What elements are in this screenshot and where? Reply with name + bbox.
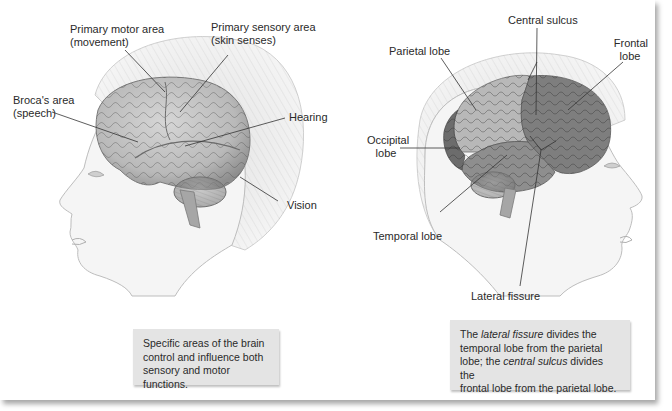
label-vision: Vision (287, 199, 317, 212)
label-text: lobe (367, 147, 405, 160)
caption-right: The lateral fissure divides the temporal… (450, 320, 630, 390)
caption-text: The (460, 328, 481, 340)
label-text: (speech) (13, 107, 74, 120)
label-primary-motor-area: Primary motor area (movement) (70, 23, 164, 49)
label-text: (movement) (70, 36, 164, 49)
figure-page: Primary motor area (movement) Primary se… (0, 0, 655, 400)
label-brocas-area: Broca's area (speech) (13, 94, 74, 120)
caption-text: lobe; the (460, 355, 503, 367)
label-text: (skin senses) (211, 34, 316, 47)
caption-line: The lateral fissure divides the (460, 328, 620, 342)
caption-text: divides the (543, 328, 596, 340)
label-text: Primary sensory area (211, 21, 316, 34)
label-occipital-lobe: Occipital lobe (367, 134, 405, 160)
label-parietal-lobe: Parietal lobe (389, 45, 450, 58)
label-text: Frontal (612, 37, 648, 50)
label-text: Broca's area (13, 94, 74, 107)
caption-term-central-sulcus: central sulcus (503, 355, 567, 367)
left-head (52, 37, 304, 296)
caption-term-lateral-fissure: lateral fissure (481, 328, 543, 340)
label-central-sulcus: Central sulcus (508, 14, 578, 27)
right-head (400, 28, 642, 296)
caption-left: Specific areas of the brain control and … (133, 329, 279, 385)
caption-line: Specific areas of the brain (143, 337, 269, 351)
caption-line: control and influence both (143, 351, 269, 365)
label-frontal-lobe: Frontal lobe (612, 37, 648, 63)
label-text: Occipital (367, 134, 405, 147)
label-temporal-lobe: Temporal lobe (373, 230, 442, 243)
label-lateral-fissure: Lateral fissure (471, 290, 540, 303)
caption-line: sensory and motor functions. (143, 364, 269, 391)
caption-line: lobe; the central sulcus divides the (460, 355, 620, 382)
label-text: lobe (612, 50, 648, 63)
label-text: Primary motor area (70, 23, 164, 36)
caption-line: temporal lobe from the parietal (460, 342, 620, 356)
label-hearing: Hearing (289, 111, 328, 124)
label-primary-sensory-area: Primary sensory area (skin senses) (211, 21, 316, 47)
caption-line: frontal lobe from the parietal lobe. (460, 382, 620, 396)
